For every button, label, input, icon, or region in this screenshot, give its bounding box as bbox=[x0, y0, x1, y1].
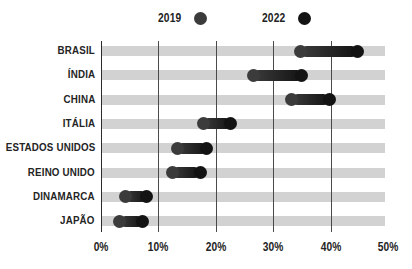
x-tick-label: 0% bbox=[84, 240, 118, 254]
dumbbell-chart: 20192022 BRASILÍNDIACHINAITÁLIAESTADOS U… bbox=[0, 0, 412, 269]
dumbbell-connector bbox=[301, 46, 357, 57]
gridline-40 bbox=[331, 41, 332, 232]
category-label: ITÁLIA bbox=[62, 117, 95, 129]
data-point-2019 bbox=[119, 190, 132, 203]
category-label: JAPÃO bbox=[60, 214, 95, 226]
data-point-2022 bbox=[323, 93, 336, 106]
category-label: CHINA bbox=[63, 93, 95, 105]
x-tick-label: 30% bbox=[256, 240, 290, 254]
category-label: DINAMARCA bbox=[33, 190, 95, 202]
data-point-2022 bbox=[200, 142, 213, 155]
category-label: ESTADOS UNIDOS bbox=[5, 141, 95, 153]
row-band bbox=[101, 143, 385, 153]
category-label: BRASIL bbox=[58, 44, 95, 56]
data-point-2022 bbox=[194, 166, 207, 179]
x-tick-label: 10% bbox=[141, 240, 175, 254]
x-tick-label: 50% bbox=[371, 240, 405, 254]
data-point-2019 bbox=[171, 142, 184, 155]
row-band bbox=[101, 95, 385, 105]
data-point-2022 bbox=[351, 45, 364, 58]
data-point-2019 bbox=[294, 45, 307, 58]
gridline-10 bbox=[158, 41, 159, 232]
x-tick-label: 40% bbox=[314, 240, 348, 254]
row-band bbox=[101, 168, 385, 178]
data-point-2019 bbox=[113, 215, 126, 228]
category-label: ÍNDIA bbox=[68, 68, 95, 80]
row-band bbox=[101, 70, 385, 80]
data-point-2022 bbox=[136, 215, 149, 228]
y-axis-line bbox=[101, 41, 102, 232]
data-point-2019 bbox=[197, 117, 210, 130]
data-point-2019 bbox=[247, 69, 260, 82]
gridline-20 bbox=[216, 41, 217, 232]
plot-area: BRASILÍNDIACHINAITÁLIAESTADOS UNIDOSREIN… bbox=[0, 0, 412, 269]
category-label: REINO UNIDO bbox=[28, 166, 95, 178]
row-band bbox=[101, 119, 385, 129]
x-tick-label: 20% bbox=[199, 240, 233, 254]
data-point-2019 bbox=[166, 166, 179, 179]
